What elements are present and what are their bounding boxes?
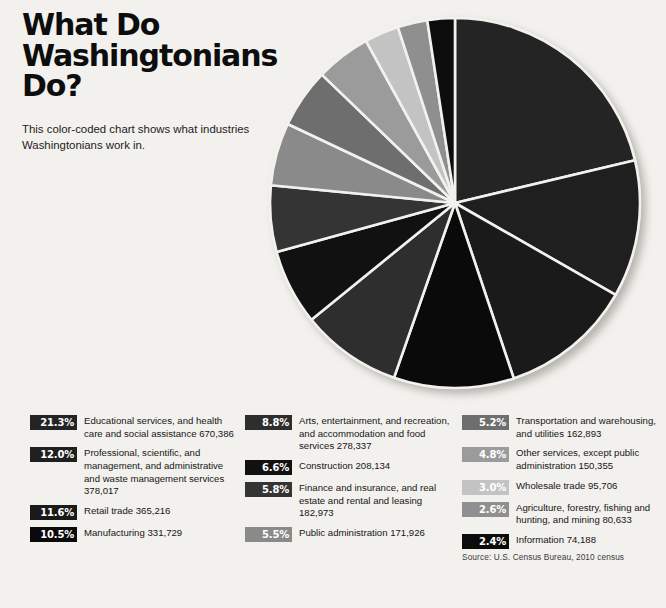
legend-swatch: 3.0% bbox=[462, 480, 509, 495]
legend-label: Educational services, and health care an… bbox=[84, 414, 240, 440]
legend-swatch: 6.6% bbox=[245, 460, 292, 475]
legend-label: Transportation and warehousing, and util… bbox=[516, 414, 657, 440]
legend-item: 10.5%Manufacturing 331,729 bbox=[30, 526, 240, 542]
infographic-canvas: What Do Washingtonians Do? This color-co… bbox=[0, 0, 666, 608]
legend-item: 6.6%Construction 208,134 bbox=[245, 459, 455, 475]
legend-label: Professional, scientific, and management… bbox=[84, 446, 240, 498]
legend-item: 5.2%Transportation and warehousing, and … bbox=[462, 414, 657, 440]
legend-label: Wholesale trade 95,706 bbox=[516, 479, 617, 493]
legend-item: 2.4%Information 74,188 bbox=[462, 533, 657, 549]
legend-item: 2.6%Agriculture, forestry, fishing and h… bbox=[462, 501, 657, 527]
legend-label: Retail trade 365,216 bbox=[84, 504, 170, 518]
legend-item: 5.8%Finance and insurance, and real esta… bbox=[245, 481, 455, 520]
legend-item: 4.8%Other services, except public admini… bbox=[462, 446, 657, 472]
legend-swatch: 11.6% bbox=[30, 505, 77, 520]
legend-swatch: 10.5% bbox=[30, 527, 77, 542]
legend-item: 12.0%Professional, scientific, and manag… bbox=[30, 446, 240, 498]
legend-item: 21.3%Educational services, and health ca… bbox=[30, 414, 240, 440]
legend-item: 5.5%Public administration 171,926 bbox=[245, 526, 455, 542]
legend-swatch: 5.5% bbox=[245, 527, 292, 542]
legend-swatch: 2.6% bbox=[462, 502, 509, 517]
legend-label: Public administration 171,926 bbox=[299, 526, 425, 540]
legend-swatch: 5.8% bbox=[245, 482, 292, 497]
legend-label: Construction 208,134 bbox=[299, 459, 390, 473]
page-title: What Do Washingtonians Do? bbox=[22, 10, 282, 102]
legend-swatch: 21.3% bbox=[30, 415, 77, 430]
legend-label: Agriculture, forestry, fishing and hunti… bbox=[516, 501, 657, 527]
legend-label: Other services, except public administra… bbox=[516, 446, 657, 472]
pie-chart bbox=[262, 6, 662, 404]
legend-swatch: 12.0% bbox=[30, 447, 77, 462]
legend-column-3: 5.2%Transportation and warehousing, and … bbox=[462, 414, 657, 555]
legend-swatch: 5.2% bbox=[462, 415, 509, 430]
pie-chart-svg bbox=[262, 6, 662, 404]
legend-swatch: 4.8% bbox=[462, 447, 509, 462]
legend-column-1: 21.3%Educational services, and health ca… bbox=[30, 414, 240, 548]
header: What Do Washingtonians Do? This color-co… bbox=[22, 10, 282, 153]
legend-swatch: 8.8% bbox=[245, 415, 292, 430]
legend-label: Information 74,188 bbox=[516, 533, 596, 547]
pie-slices bbox=[270, 18, 640, 388]
legend-label: Arts, entertainment, and recreation, and… bbox=[299, 414, 455, 453]
legend: 21.3%Educational services, and health ca… bbox=[0, 414, 666, 554]
source-note: Source: U.S. Census Bureau, 2010 census bbox=[462, 552, 624, 562]
legend-swatch: 2.4% bbox=[462, 534, 509, 549]
legend-label: Manufacturing 331,729 bbox=[84, 526, 182, 540]
legend-label: Finance and insurance, and real estate a… bbox=[299, 481, 455, 520]
page-subtitle: This color-coded chart shows what indust… bbox=[22, 121, 272, 153]
legend-item: 3.0%Wholesale trade 95,706 bbox=[462, 479, 657, 495]
legend-column-2: 8.8%Arts, entertainment, and recreation,… bbox=[245, 414, 455, 548]
legend-item: 8.8%Arts, entertainment, and recreation,… bbox=[245, 414, 455, 453]
legend-item: 11.6%Retail trade 365,216 bbox=[30, 504, 240, 520]
